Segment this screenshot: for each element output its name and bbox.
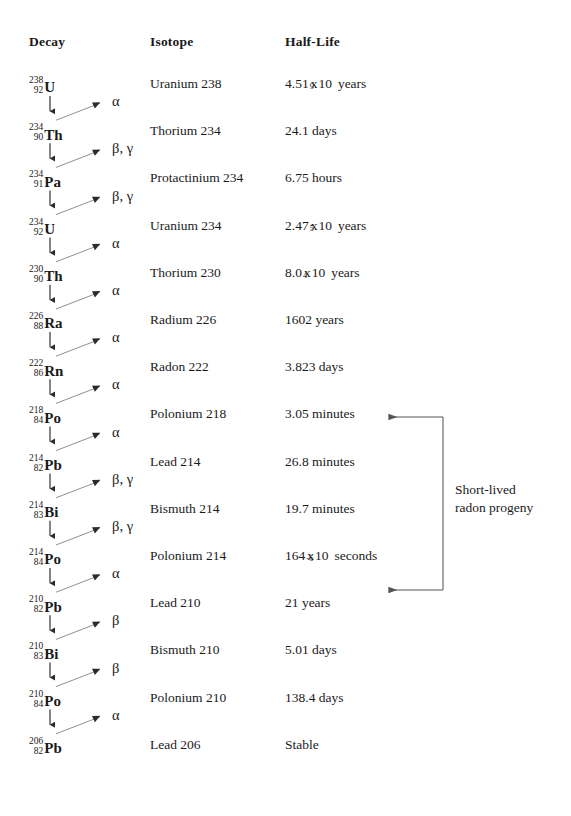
decay-mode-label: β, γ [112,471,133,488]
nuclide-numbers: 21084 [29,690,43,710]
nuclide-numbers: 21482 [29,454,43,474]
nuclide-numbers: 23892 [29,76,43,96]
isotope-name: Thorium 230 [150,265,221,281]
element-symbol: Bi [44,505,58,520]
nuclide-symbol-rn-222: 22286Rn [29,358,63,380]
half-life-value: 164-6x10seconds [285,548,377,564]
nuclide-numbers: 23492 [29,218,43,238]
decay-branch-arrow [56,481,100,498]
column-header-half-life: Half-Life [285,34,340,50]
nuclide-numbers: 21082 [29,595,43,615]
nuclide-symbol-th-230: 23090Th [29,264,63,286]
element-symbol: Po [44,694,61,709]
nuclide-symbol-th-234: 23490Th [29,122,63,144]
half-life-value: 4.519x10years [285,76,366,92]
decay-mode-label: β, γ [112,140,133,157]
decay-mode-label: β, γ [112,518,133,535]
nuclide-symbol-po-210: 21084Po [29,689,61,711]
half-life-value: 3.823 days [285,359,344,375]
decay-branch-arrow [56,622,100,639]
half-life-coefficient: 164 [285,548,305,563]
half-life-value: 2.475x10years [285,218,366,234]
decay-branch-arrow [56,245,100,262]
decay-branch-arrow [56,386,100,403]
decay-mode-label: α [112,707,120,724]
half-life-base: 10 [318,76,332,91]
half-life-unit: years [338,218,366,233]
decay-mode-label: α [112,376,120,393]
half-life-value: 8.04x10years [285,265,360,281]
half-life-base: 10 [312,265,326,280]
decay-mode-label: α [112,282,120,299]
half-life-base: 10 [315,548,329,563]
atomic-number: 83 [29,511,43,521]
nuclide-symbol-pb-206: 20682Pb [29,736,62,758]
decay-branch-arrow [56,339,100,356]
nuclide-symbol-po-218: 21884Po [29,405,61,427]
isotope-name: Lead 210 [150,595,201,611]
decay-branch-arrow [56,575,100,592]
decay-mode-label: β, γ [112,188,133,205]
nuclide-numbers: 23490 [29,123,43,143]
decay-branch-arrow [56,292,100,309]
element-symbol: U [44,222,55,237]
column-header-isotope: Isotope [150,34,193,50]
atomic-number: 84 [29,416,43,426]
isotope-name: Polonium 210 [150,690,226,706]
element-symbol: Pb [44,458,62,473]
atomic-number: 90 [29,133,43,143]
atomic-number: 82 [29,747,43,757]
nuclide-symbol-ra-226: 22688Ra [29,311,63,333]
nuclide-numbers: 22286 [29,359,43,379]
nuclide-symbol-pb-214: 21482Pb [29,453,62,475]
radon-progeny-caption: Short-lived radon progeny [455,481,533,517]
isotope-name: Thorium 234 [150,123,221,139]
decay-mode-label: β [112,612,119,629]
half-life-coefficient: 2.47 [285,218,309,233]
half-life-unit: years [338,76,366,91]
nuclide-numbers: 20682 [29,737,43,757]
isotope-name: Polonium 218 [150,406,226,422]
half-life-value: 5.01 days [285,642,337,658]
atomic-number: 86 [29,369,43,379]
half-life-value: 19.7 minutes [285,501,355,517]
atomic-number: 82 [29,464,43,474]
half-life-coefficient: 8.0 [285,265,302,280]
isotope-name: Lead 206 [150,737,201,753]
isotope-name: Uranium 234 [150,218,222,234]
atomic-number: 83 [29,652,43,662]
isotope-name: Polonium 214 [150,548,226,564]
atomic-number: 92 [29,228,43,238]
half-life-value: 138.4 days [285,690,344,706]
element-symbol: Bi [44,647,58,662]
decay-mode-label: α [112,424,120,441]
nuclide-symbol-u-234: 23492U [29,217,55,239]
decay-mode-label: α [112,235,120,252]
decay-branch-arrow [56,198,100,215]
decay-mode-label: β [112,660,119,677]
element-symbol: Pb [44,741,62,756]
decay-branch-arrow [56,150,100,167]
element-symbol: Po [44,552,61,567]
atomic-number: 84 [29,700,43,710]
decay-branch-arrow [56,528,100,545]
element-symbol: Rn [44,364,63,379]
column-header-decay: Decay [29,34,65,50]
element-symbol: Pb [44,600,62,615]
half-life-unit: years [331,265,359,280]
element-symbol: Ra [44,316,62,331]
nuclide-numbers: 21884 [29,406,43,426]
element-symbol: Pa [44,175,61,190]
element-symbol: Po [44,411,61,426]
half-life-value: 21 years [285,595,330,611]
half-life-value: Stable [285,737,319,753]
isotope-name: Radium 226 [150,312,216,328]
half-life-value: 1602 years [285,312,344,328]
atomic-number: 91 [29,180,43,190]
half-life-value: 6.75 hours [285,170,342,186]
nuclide-symbol-bi-214: 21483Bi [29,500,58,522]
element-symbol: Th [44,269,62,284]
nuclide-numbers: 21483 [29,501,43,521]
nuclide-numbers: 22688 [29,312,43,332]
decay-mode-label: α [112,329,120,346]
